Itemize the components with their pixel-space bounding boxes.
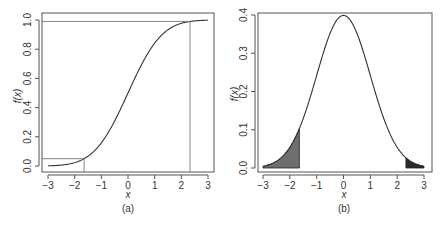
caption-a: (a) xyxy=(122,203,134,214)
y-tick-label: 1.0 xyxy=(22,13,33,27)
y-tick-label: 0.0 xyxy=(238,161,249,175)
y-tick-label: 0.2 xyxy=(22,129,33,143)
y-tick-label: 0.4 xyxy=(22,100,33,114)
x-tick-label: −2 xyxy=(284,180,296,191)
shaded-tails xyxy=(263,129,424,168)
left-tail-region xyxy=(263,129,299,168)
y-tick-label: 0.0 xyxy=(22,159,33,173)
cdf-line xyxy=(48,20,208,166)
y-axis-title-a: f(x) xyxy=(12,89,23,103)
x-tick-label: 3 xyxy=(421,180,427,191)
x-tick-label: −1 xyxy=(96,180,108,191)
x-tick-label: −1 xyxy=(311,180,323,191)
pdf-line xyxy=(263,15,424,166)
y-axis-title-b: f(x) xyxy=(229,87,240,101)
x-tick-label: 1 xyxy=(152,180,158,191)
x-tick-label: 3 xyxy=(205,180,211,191)
x-tick-label: −3 xyxy=(42,180,54,191)
reference-lines xyxy=(42,21,190,172)
x-tick-label: −3 xyxy=(257,180,269,191)
y-tick-label: 0.8 xyxy=(22,42,33,56)
figure: −3−2−10123 0.00.20.40.60.81.0 x f(x) (a)… xyxy=(0,0,444,227)
x-tick-label: 1 xyxy=(368,180,374,191)
y-axis-ticks: 0.00.20.40.60.81.0 xyxy=(22,13,39,173)
caption-b: (b) xyxy=(338,203,350,214)
x-tick-label: 2 xyxy=(394,180,400,191)
y-tick-label: 0.4 xyxy=(238,8,249,22)
pdf-curve xyxy=(263,15,424,166)
x-axis-title-b: x xyxy=(341,189,348,200)
y-tick-label: 0.3 xyxy=(238,46,249,60)
panel-a: −3−2−10123 0.00.20.40.60.81.0 x f(x) (a) xyxy=(12,13,214,214)
y-axis-ticks: 0.00.10.20.30.4 xyxy=(238,8,255,175)
plot-frame-b xyxy=(258,13,432,172)
cdf-curve xyxy=(48,20,208,166)
panel-b: −3−2−10123 0.00.10.20.30.4 x f(x) (b) xyxy=(229,8,432,214)
x-tick-label: −2 xyxy=(69,180,81,191)
x-tick-label: 2 xyxy=(179,180,185,191)
x-axis-title-a: x xyxy=(125,189,132,200)
y-tick-label: 0.1 xyxy=(238,122,249,136)
y-tick-label: 0.6 xyxy=(22,71,33,85)
